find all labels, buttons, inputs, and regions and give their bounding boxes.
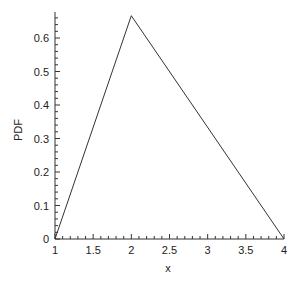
y-tick-label: 0.6 — [34, 32, 49, 44]
x-tick-label: 2.5 — [162, 244, 177, 256]
x-tick-label: 4 — [281, 244, 287, 256]
x-axis-label: x — [165, 262, 171, 274]
y-axis-label: PDF — [12, 119, 24, 141]
axes — [55, 12, 284, 239]
y-tick-label: 0.4 — [34, 99, 49, 111]
pdf-line — [55, 16, 284, 239]
y-tick-label: 0.1 — [34, 200, 49, 212]
x-tick-label: 2 — [128, 244, 134, 256]
y-tick-label: 0.5 — [34, 66, 49, 78]
x-tick-label: 1.5 — [86, 244, 101, 256]
x-tick-label: 3.5 — [238, 244, 253, 256]
tick-labels: 11.522.533.5400.10.20.30.40.50.6 — [34, 32, 287, 256]
pdf-chart: 11.522.533.5400.10.20.30.40.50.6 x PDF — [0, 0, 298, 286]
x-tick-label: 1 — [52, 244, 58, 256]
y-tick-label: 0 — [43, 233, 49, 245]
ticks — [55, 18, 284, 239]
y-tick-label: 0.2 — [34, 166, 49, 178]
x-tick-label: 3 — [205, 244, 211, 256]
y-tick-label: 0.3 — [34, 133, 49, 145]
